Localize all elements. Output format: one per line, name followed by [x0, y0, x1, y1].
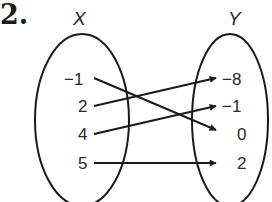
domain-value: −1 — [64, 70, 83, 89]
diagram-canvas: X Y −1 2 4 5 −8 −1 0 2 — [0, 0, 272, 202]
domain-ellipse — [35, 34, 129, 202]
range-value: −8 — [222, 70, 241, 89]
domain-value: 4 — [78, 125, 87, 144]
range-value: −1 — [222, 97, 241, 116]
domain-value: 2 — [78, 97, 87, 116]
range-value: 2 — [237, 154, 246, 173]
domain-title: X — [72, 8, 87, 29]
arrow-neg1-to-0 — [94, 78, 216, 130]
range-value: 0 — [237, 125, 246, 144]
domain-value: 5 — [78, 154, 87, 173]
range-title: Y — [228, 8, 242, 29]
range-ellipse — [192, 34, 268, 202]
arrow-4-to-neg1 — [94, 106, 216, 134]
mapping-diagram: 2. X Y −1 2 4 5 −8 −1 0 2 — [0, 0, 272, 202]
arrow-2-to-neg8 — [94, 78, 216, 106]
